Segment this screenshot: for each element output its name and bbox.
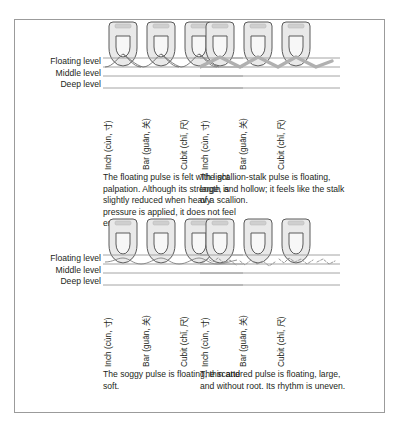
position-label-inch: Inch (cùn, 寸): [101, 120, 113, 170]
panel-caption-scattered: The scattered pulse is floating, large, …: [200, 369, 346, 392]
position-label-cubit: Cubit (chǐ, 尺): [177, 317, 189, 367]
finger-cubit-icon: [282, 22, 310, 66]
position-label-bar: Bar (guān, 关): [236, 118, 248, 170]
panel-scattered-pulse: Inch (cùn, 寸) Bar (guān, 关) Cubit (chǐ, …: [200, 217, 381, 414]
finger-cubit-icon: [282, 219, 310, 263]
level-label-middle: Middle level: [17, 68, 101, 80]
finger-inch-icon: [206, 219, 234, 263]
level-labels-top-left: Floating level Middle level Deep level: [17, 56, 101, 91]
finger-bar-icon: [244, 219, 272, 263]
level-label-deep: Deep level: [17, 276, 101, 288]
position-labels-bottom-right: Inch (cùn, 寸) Bar (guān, 关) Cubit (chǐ, …: [200, 295, 340, 367]
finger-bar-icon: [147, 219, 175, 263]
position-label-inch: Inch (cùn, 寸): [198, 317, 210, 367]
position-label-cubit: Cubit (chǐ, 尺): [274, 317, 286, 367]
finger-bar-icon: [147, 22, 175, 66]
level-labels-bottom-left: Floating level Middle level Deep level: [17, 253, 101, 288]
level-label-middle: Middle level: [17, 265, 101, 277]
panel-floating-pulse: Floating level Middle level Deep level: [15, 20, 196, 217]
panel-caption-scallion-stalk: The scallion-stalk pulse is floating, la…: [200, 172, 346, 207]
position-label-bar: Bar (guān, 关): [236, 315, 248, 367]
position-label-bar: Bar (guān, 关): [139, 315, 151, 367]
pulse-diagram-scattered: [200, 217, 340, 297]
finger-inch-icon: [109, 219, 137, 263]
position-label-cubit: Cubit (chǐ, 尺): [274, 120, 286, 170]
finger-inch-icon: [206, 22, 234, 66]
finger-inch-icon: [109, 22, 137, 66]
pulse-diagram-scallion-stalk: [200, 20, 340, 100]
panel-scallion-stalk-pulse: Inch (cùn, 寸) Bar (guān, 关) Cubit (chǐ, …: [200, 20, 381, 217]
level-label-deep: Deep level: [17, 79, 101, 91]
position-label-inch: Inch (cùn, 寸): [198, 120, 210, 170]
position-label-cubit: Cubit (chǐ, 尺): [177, 120, 189, 170]
position-label-bar: Bar (guān, 关): [139, 118, 151, 170]
finger-bar-icon: [244, 22, 272, 66]
figure-frame: Floating level Middle level Deep level: [14, 19, 385, 413]
panel-soggy-pulse: Floating level Middle level Deep level: [15, 217, 196, 414]
level-label-floating: Floating level: [17, 56, 101, 68]
position-label-inch: Inch (cùn, 寸): [101, 317, 113, 367]
position-labels-top-right: Inch (cùn, 寸) Bar (guān, 关) Cubit (chǐ, …: [200, 98, 340, 170]
level-label-floating: Floating level: [17, 253, 101, 265]
